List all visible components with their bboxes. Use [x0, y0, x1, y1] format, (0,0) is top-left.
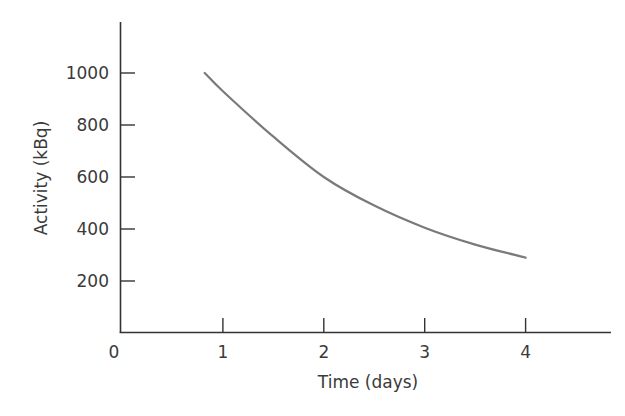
x-tick-label: 3 — [419, 342, 430, 362]
x-tick-label: 1 — [217, 342, 228, 362]
y-axis-title: Activity (kBq) — [31, 121, 51, 236]
x-tick-label: 2 — [318, 342, 329, 362]
activity-curve — [205, 73, 526, 258]
y-tick-label: 400 — [77, 219, 109, 239]
x-tick-label: 0 — [109, 342, 120, 362]
y-tick-label: 800 — [77, 115, 109, 135]
y-tick-label: 200 — [77, 271, 109, 291]
x-axis-title: Time (days) — [317, 372, 418, 392]
y-tick-label: 600 — [77, 167, 109, 187]
y-axis-ticks: 2004006008001000 — [66, 63, 135, 291]
x-axis-ticks: 01234 — [109, 318, 531, 362]
axes — [120, 22, 611, 333]
x-tick-label: 4 — [520, 342, 531, 362]
y-tick-label: 1000 — [66, 63, 109, 83]
activity-decay-chart: 2004006008001000 01234 Activity (kBq) Ti… — [0, 0, 625, 416]
